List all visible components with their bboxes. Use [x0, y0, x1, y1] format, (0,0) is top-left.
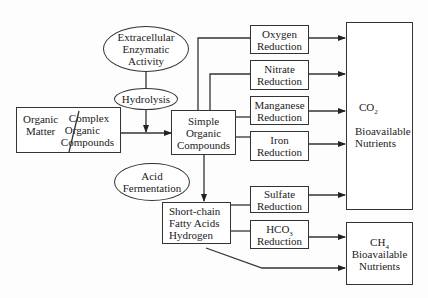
acid-fermentation-node: Acid Fermentation [114, 163, 190, 201]
organic-matter-node: Organic Matter Complex Organic Compounds [16, 107, 121, 153]
hydrolysis-node: Hydrolysis [114, 88, 178, 110]
node-text: HCO3 [266, 223, 293, 235]
node-text: Compounds [177, 139, 230, 151]
node-text: Matter [23, 125, 58, 137]
node-text: Activity [128, 55, 164, 67]
node-text: Organic [186, 127, 221, 139]
manganese-reduction-node: Manganese Reduction [250, 96, 309, 125]
node-text: Simple [188, 115, 219, 127]
node-text: Hydrogen [169, 229, 213, 241]
node-text: Nutrients [359, 260, 400, 272]
node-text: CO2 [355, 101, 378, 113]
formula-text: CH [370, 236, 385, 248]
node-text: Reduction [257, 75, 302, 87]
divider-slash [67, 108, 81, 152]
simple-organic-compounds-node: Simple Organic Compounds [171, 110, 236, 155]
node-text: Sulfate [264, 188, 295, 200]
node-text: Nutrients [355, 137, 396, 149]
node-text: CH4 [370, 236, 389, 248]
node-text: Hydrolysis [122, 93, 170, 105]
iron-reduction-node: Iron Reduction [250, 131, 309, 161]
short-chain-fatty-acids-node: Short-chain Fatty Acids Hydrogen [162, 202, 231, 244]
node-text: Fermentation [123, 182, 182, 194]
node-text: Reduction [257, 40, 302, 52]
node-text: Manganese [254, 99, 304, 111]
formula-text: CO [359, 101, 374, 113]
nitrate-reduction-node: Nitrate Reduction [250, 60, 309, 90]
node-text: Iron [270, 134, 288, 146]
co2-bioavailable-nutrients-node: CO2 Bioavailable Nutrients [346, 22, 413, 210]
node-text: Short-chain [169, 205, 220, 217]
node-text: Reduction [257, 200, 302, 212]
sulfate-reduction-node: Sulfate Reduction [250, 186, 309, 213]
ch4-bioavailable-nutrients-node: CH4 Bioavailable Nutrients [346, 222, 413, 285]
formula-subscript: 2 [374, 108, 378, 116]
node-text: Fatty Acids [169, 217, 219, 229]
node-text: Reduction [257, 111, 302, 123]
node-text: Organic [23, 113, 58, 125]
node-text: Reduction [257, 146, 302, 158]
diagram-canvas: Extracellular Enzymatic Activity Hydroly… [0, 0, 428, 298]
node-text: Reduction [257, 235, 302, 247]
extracellular-enzymatic-activity-node: Extracellular Enzymatic Activity [103, 26, 189, 72]
organic-matter-label: Organic Matter [17, 113, 58, 137]
node-text: Nitrate [264, 63, 295, 75]
formula-text: HCO [266, 223, 289, 235]
node-text: Enzymatic [122, 43, 169, 55]
node-text: Extracellular [118, 31, 175, 43]
hco3-reduction-node: HCO3 Reduction [250, 220, 309, 249]
node-text: Acid [141, 170, 162, 182]
node-text: Oxygen [262, 28, 297, 40]
oxygen-reduction-node: Oxygen Reduction [250, 25, 309, 54]
node-text: Bioavailable [355, 125, 411, 137]
node-text: Bioavailable [352, 248, 408, 260]
